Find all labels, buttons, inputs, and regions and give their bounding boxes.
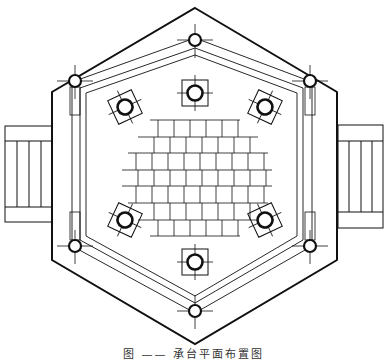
left-stairs [5,126,52,222]
corner-pile [57,65,93,115]
inner-column [101,83,149,131]
corner-pile [57,212,93,264]
inner-column [177,75,213,111]
right-stairs [338,125,383,228]
outer-hexagon [52,8,337,344]
inner-column [241,83,289,131]
inner-column [177,244,213,280]
figure-caption: 图 —— 承台平面布置图 [0,349,387,361]
corner-pile [177,295,213,329]
